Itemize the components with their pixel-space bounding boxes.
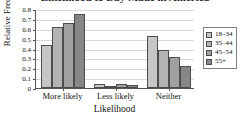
legend-swatch	[206, 32, 212, 38]
bar	[52, 27, 63, 88]
bar-group	[94, 10, 138, 88]
y-tick-mark	[33, 10, 36, 11]
y-tick-label: 0.5	[22, 36, 31, 43]
bar	[147, 36, 158, 88]
y-tick-mark	[33, 69, 36, 70]
legend-label: 18–34	[215, 31, 233, 38]
x-axis-label: Likelihood	[35, 104, 194, 114]
chart-title: Likelihood to Buy Made in America	[41, 0, 209, 3]
legend-item: 35–44	[206, 39, 233, 48]
legend-label: 55+	[215, 58, 226, 65]
y-axis-label: Relative Frequency	[2, 0, 14, 50]
legend-item: 45–54	[206, 48, 233, 57]
bar	[105, 86, 116, 88]
bar	[169, 57, 180, 88]
bar-group	[41, 10, 85, 88]
bar	[158, 50, 169, 88]
y-tick-mark	[33, 20, 36, 21]
y-tick-label: 0.6	[22, 26, 31, 33]
legend-item: 55+	[206, 57, 233, 66]
plot-area: 00.10.20.30.40.50.60.70.8 More likelyLes…	[35, 10, 194, 89]
y-tick-mark	[33, 40, 36, 41]
bar	[180, 66, 191, 88]
y-tick-mark	[33, 30, 36, 31]
y-tick-label: 0	[28, 86, 32, 93]
y-tick-label: 0.2	[22, 66, 31, 73]
chart-title-strip: Likelihood to Buy Made in America	[0, 0, 250, 7]
y-tick-label: 0.1	[22, 76, 31, 83]
x-tick-label: Less likely	[97, 92, 134, 101]
y-tick-mark	[33, 59, 36, 60]
chart-legend: 18–3435–4445–5455+	[203, 27, 237, 69]
legend-label: 45–54	[215, 49, 233, 56]
x-tick-label: More likely	[43, 92, 83, 101]
legend-swatch	[206, 50, 212, 56]
y-tick-mark	[33, 50, 36, 51]
legend-swatch	[206, 41, 212, 47]
bar	[74, 14, 85, 88]
bar	[41, 45, 52, 88]
bar-group	[147, 10, 191, 88]
y-tick-label: 0.8	[22, 7, 31, 14]
x-tick-label: Neither	[156, 92, 182, 101]
bar	[127, 85, 138, 88]
y-tick-label: 0.7	[22, 16, 31, 23]
y-tick-mark	[33, 79, 36, 80]
legend-swatch	[206, 59, 212, 65]
legend-label: 35–44	[215, 40, 233, 47]
bar-chart-figure: Likelihood to Buy Made in America Relati…	[0, 0, 250, 119]
bar	[94, 84, 105, 88]
legend-item: 18–34	[206, 30, 233, 39]
bar	[63, 23, 74, 88]
y-tick-mark	[33, 89, 36, 90]
bar	[116, 84, 127, 88]
y-tick-label: 0.4	[22, 46, 31, 53]
y-tick-label: 0.3	[22, 56, 31, 63]
